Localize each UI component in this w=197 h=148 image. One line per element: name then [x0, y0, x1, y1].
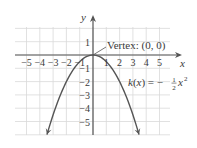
vertex-label: Vertex: (0, 0) — [107, 39, 166, 52]
function-exponent: 2 — [184, 75, 188, 83]
fraction-numerator: 1 — [172, 76, 176, 84]
parabola-chart: xy−5−4−3−2−1123451−1−2−3−4−5Vertex: (0, … — [0, 0, 197, 148]
y-tick-label: −5 — [79, 117, 90, 128]
x-tick-label: 5 — [157, 57, 162, 68]
vertex-leader-line — [93, 47, 106, 55]
y-axis-label: y — [80, 11, 86, 23]
x-tick-label: 1 — [104, 57, 109, 68]
x-tick-label: 3 — [130, 57, 135, 68]
x-tick-label: −5 — [21, 57, 32, 68]
y-tick-label: 1 — [85, 37, 90, 48]
y-tick-label: −2 — [79, 77, 90, 88]
y-tick-label: −3 — [79, 90, 90, 101]
x-tick-label: −3 — [48, 57, 59, 68]
fraction-denominator: 2 — [172, 84, 176, 92]
x-tick-label: −4 — [34, 57, 45, 68]
x-tick-label: 4 — [144, 57, 149, 68]
function-label: k(x) = − — [128, 76, 163, 89]
function-variable: x — [177, 76, 183, 88]
x-axis-label: x — [179, 57, 185, 69]
y-tick-label: −4 — [79, 103, 90, 114]
y-tick-label: −1 — [79, 63, 90, 74]
x-tick-label: −2 — [61, 57, 72, 68]
x-tick-label: 2 — [117, 57, 122, 68]
